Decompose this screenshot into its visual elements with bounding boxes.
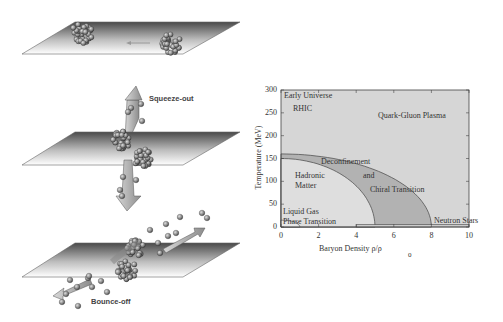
rhic-label: RHIC [293,104,312,113]
chiral-transition-label: Chiral Transition [370,185,424,194]
reaction-plane [22,22,240,54]
deconfinement-label: Deconfinement [321,157,370,166]
x-tick-label: 4 [348,231,364,240]
bounce-off-arrow-left-icon [53,279,92,300]
neutron-stars-label: Neutron Stars [434,216,478,225]
matter-label: Matter [295,181,316,190]
x-axis-label: Baryon Density ρ/ρ [319,244,382,253]
and-label: and [363,171,375,180]
nucleus-lower [133,147,153,169]
panel-bounce-off [22,210,240,309]
qgp-label: Quark-Gluon Plasma [378,111,446,120]
y-tick-label: 250 [257,108,277,117]
y-tick-label: 200 [257,131,277,140]
x-tick-label: 10 [461,231,477,240]
bounce-off-label: Bounce-off [91,297,131,306]
phase-transition-label: Phase Transition [283,217,336,226]
x-tick-label: 2 [311,231,327,240]
squeeze-out-arrow-down-icon [116,160,141,211]
y-tick-label: 150 [257,154,277,163]
x-tick-label: 0 [273,231,289,240]
x-axis-label-subscript: 0 [408,251,412,259]
x-tick-label: 8 [423,231,439,240]
y-tick-label: 50 [257,199,277,208]
liquid-gas-label: Liquid Gas [283,207,319,216]
panel-squeeze-out [22,86,240,211]
hadronic-label: Hadronic [295,171,325,180]
early-universe-label: Early Universe [284,91,332,100]
panel-approach [22,22,240,56]
y-tick-label: 100 [257,176,277,185]
squeeze-out-label: Squeeze-out [149,94,194,103]
y-tick-label: 300 [257,85,277,94]
y-tick-label: 0 [257,222,277,231]
figure-svg [0,0,503,322]
x-tick-label: 6 [386,231,402,240]
figure-canvas: Squeeze-out Bounce-off Early Universe RH… [0,0,503,322]
